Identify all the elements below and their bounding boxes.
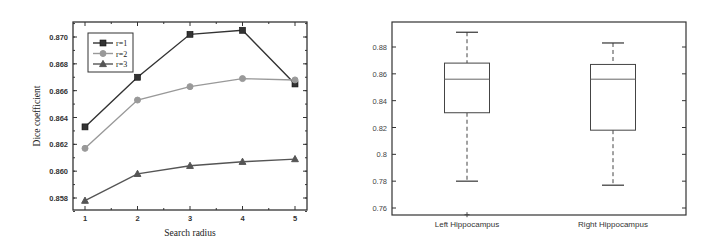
x-tick-label: 2 <box>135 214 139 223</box>
x-tick-label: 3 <box>188 214 192 223</box>
y-tick-label: 0.866 <box>49 87 68 96</box>
y-tick-label: 0.82 <box>372 124 387 133</box>
y-tick-label: 0.88 <box>372 43 387 52</box>
y-tick-label: 0.864 <box>49 114 69 123</box>
line-chart: 0.8580.8600.8620.8640.8660.8680.87012345… <box>32 22 307 238</box>
box-right <box>591 43 636 185</box>
box-plot: 0.760.780.80.820.840.860.88Left Hippocam… <box>372 22 686 229</box>
legend-label: r=2 <box>116 50 127 59</box>
y-tick-label: 0.78 <box>372 177 387 186</box>
y-tick-label: 0.870 <box>49 33 68 42</box>
figure: 0.8580.8600.8620.8640.8660.8680.87012345… <box>0 0 722 252</box>
series-r=3 <box>82 155 299 203</box>
legend: r=1r=2r=3 <box>88 33 133 72</box>
x-tick-label: Left Hippocampus <box>435 220 499 229</box>
y-tick-label: 0.84 <box>372 97 387 106</box>
x-tick-label: 1 <box>83 214 87 223</box>
y-axis-label: Dice coefficient <box>32 85 42 146</box>
y-tick-label: 0.862 <box>49 140 68 149</box>
legend-label: r=3 <box>116 60 127 69</box>
y-tick-label: 0.858 <box>49 194 68 203</box>
x-axis-label: Search radius <box>164 228 216 238</box>
x-tick-label: 4 <box>240 214 245 223</box>
y-tick-label: 0.86 <box>372 70 387 79</box>
y-tick-label: 0.8 <box>377 150 387 159</box>
box-left <box>445 32 490 217</box>
y-tick-label: 0.76 <box>372 204 387 213</box>
plot-frame <box>392 22 686 215</box>
y-tick-label: 0.868 <box>49 60 68 69</box>
y-tick-label: 0.860 <box>49 167 68 176</box>
x-tick-label: Right Hippocampus <box>578 220 648 229</box>
series-r=2 <box>82 76 298 152</box>
legend-label: r=1 <box>116 39 127 48</box>
x-tick-label: 5 <box>293 214 297 223</box>
